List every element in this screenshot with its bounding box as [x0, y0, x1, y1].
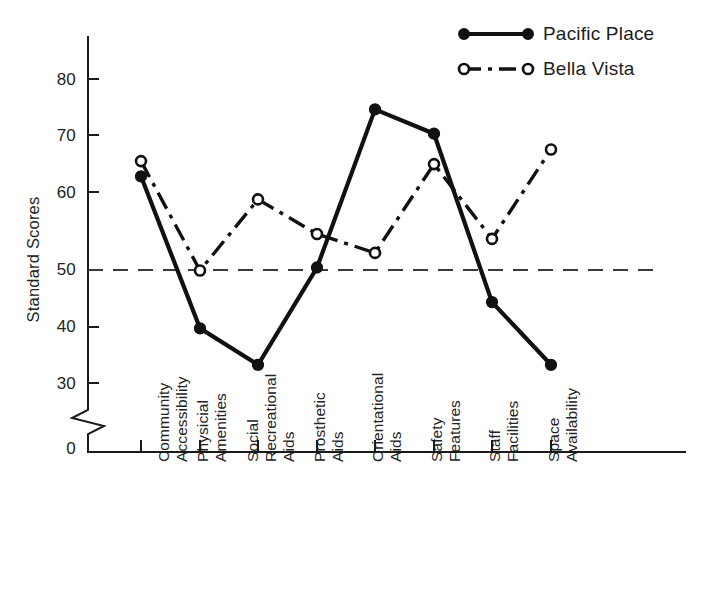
data-point [487, 234, 497, 244]
data-point [253, 194, 263, 204]
data-point [312, 229, 322, 239]
chart-container: Standard Scores 80 70 60 50 40 30 0 Comm… [0, 0, 708, 591]
data-point [546, 359, 557, 370]
data-point [312, 262, 323, 273]
data-point [429, 159, 439, 169]
data-point [136, 171, 147, 182]
data-point [370, 248, 380, 258]
series-layer [136, 104, 557, 370]
data-point [253, 359, 264, 370]
series-line-2 [141, 150, 551, 271]
data-point [195, 323, 206, 334]
data-point [487, 297, 498, 308]
data-point [370, 104, 381, 115]
data-point [195, 266, 205, 276]
data-point [546, 145, 556, 155]
y-axis-break-icon [72, 404, 104, 452]
data-point [429, 128, 440, 139]
plot-area [0, 0, 708, 591]
data-point [136, 156, 146, 166]
